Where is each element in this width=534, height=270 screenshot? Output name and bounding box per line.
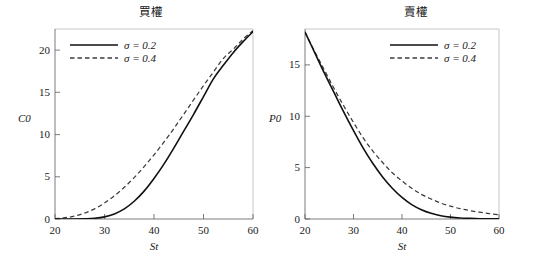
option-price-figure: 買權 0 5 10 15 20: [0, 0, 534, 270]
call-y-ticks: 0 5 10 15 20: [39, 44, 60, 225]
call-x-ticks: 20 30 40 50 60: [50, 214, 260, 236]
call-xtick-20: 20: [50, 224, 62, 236]
call-ytick-0: 0: [45, 213, 51, 225]
put-ytick-10: 10: [289, 110, 301, 122]
put-xtick-40: 40: [397, 224, 409, 236]
put-ytick-15: 15: [289, 58, 301, 70]
call-ytick-5: 5: [45, 170, 51, 182]
put-legend: σ = 0.2 σ = 0.4: [390, 39, 477, 64]
call-xtick-50: 50: [198, 224, 210, 236]
call-xtick-30: 30: [99, 224, 111, 236]
put-y-ticks: 0 5 10 15: [289, 58, 310, 224]
call-option-plot: 0 5 10 15 20 20 30 40 50 60 C0 St: [0, 0, 267, 270]
call-xtick-40: 40: [149, 224, 161, 236]
put-x-axis-label: St: [398, 240, 408, 252]
call-x-axis-label: St: [150, 240, 160, 252]
put-xtick-60: 60: [494, 224, 506, 236]
call-xtick-60: 60: [248, 224, 260, 236]
put-xtick-50: 50: [445, 224, 457, 236]
put-x-ticks: 20 30 40 50 60: [300, 214, 506, 236]
call-legend: σ = 0.2 σ = 0.4: [70, 39, 157, 64]
put-ytick-0: 0: [295, 213, 301, 225]
put-xtick-20: 20: [300, 224, 312, 236]
put-legend-label-2: σ = 0.4: [444, 52, 477, 64]
call-ytick-10: 10: [39, 128, 51, 140]
put-option-plot: 0 5 10 15 20 30 40 50 60 P0 St: [267, 0, 534, 270]
call-y-axis-label: C0: [18, 112, 31, 124]
call-legend-label-1: σ = 0.2: [124, 39, 157, 51]
call-option-panel: 買權 0 5 10 15 20: [0, 0, 267, 270]
call-ytick-15: 15: [39, 86, 51, 98]
put-xtick-30: 30: [348, 224, 360, 236]
put-y-axis-label: P0: [268, 112, 282, 124]
put-ytick-5: 5: [295, 161, 301, 173]
put-legend-label-1: σ = 0.2: [444, 39, 477, 51]
call-legend-label-2: σ = 0.4: [124, 52, 157, 64]
call-ytick-20: 20: [39, 44, 51, 56]
put-option-panel: 賣權 0 5 10 15: [267, 0, 534, 270]
